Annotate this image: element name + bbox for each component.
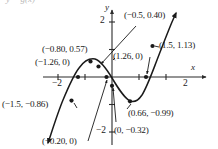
label-point-neg126: (−1.26, 0) (35, 58, 70, 67)
label-point-15: (1.5, 1.13) (159, 41, 195, 50)
point-zero (110, 84, 114, 88)
point-126 (144, 75, 148, 79)
label-point-neg05: (−0.5, 0.40) (124, 11, 165, 20)
y-tick-neg2: −2 (96, 126, 106, 136)
point-066 (128, 99, 132, 103)
x-tick-2: 2 (183, 79, 188, 89)
point-15 (150, 44, 154, 48)
x-axis-label: x (191, 63, 195, 72)
graph-svg (0, 0, 218, 149)
leader-126 (147, 57, 150, 74)
x-axis (43, 74, 206, 80)
point-neg020 (104, 75, 108, 79)
leader-neg15 (74, 103, 77, 108)
point-neg126 (76, 75, 80, 79)
y-axis-label: y (105, 3, 109, 12)
label-point-neg080: (−0.80, 0.57) (42, 45, 87, 54)
label-point-neg020: (−0.20, 0) (42, 137, 77, 146)
label-point-066: (0.66, −0.99) (128, 109, 173, 118)
point-neg080 (88, 59, 92, 63)
x-tick-neg2: −2 (52, 79, 62, 89)
point-neg15 (69, 99, 73, 103)
figure-canvas: y = g(x) (0, 0, 218, 149)
label-point-neg15: (−1.5, −0.86) (2, 100, 48, 109)
label-point-zero: (0, −0.32) (114, 126, 149, 135)
point-neg05 (96, 64, 100, 68)
y-tick-2: 2 (100, 16, 105, 26)
label-point-126: (1.26, 0) (113, 52, 143, 61)
